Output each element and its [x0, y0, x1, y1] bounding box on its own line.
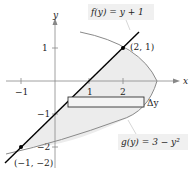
x-tick-label: 2 [120, 87, 126, 97]
x-tick-label: −1 [15, 87, 28, 97]
f-label-leader [126, 20, 130, 30]
y-axis-label: y [52, 10, 59, 20]
g-label: g(y) = 3 − y² [121, 137, 180, 147]
x-tick-label: 1 [87, 87, 93, 97]
f-label: f(y) = y + 1 [90, 7, 144, 17]
y-tick-label: −1 [37, 109, 50, 119]
x-axis-label: x [183, 76, 188, 86]
delta-y-label: Δy [147, 98, 159, 108]
region-diagram: x y −1 1 2 1 −1 −2 Δy (2, 1) (−1, −2) f(… [0, 0, 195, 174]
point-neg1-neg2 [19, 145, 23, 149]
x-axis-arrow-icon [173, 79, 180, 84]
g-label-leader [128, 120, 136, 134]
point-label-neg1-neg2: (−1, −2) [14, 158, 53, 168]
point-2-1 [121, 46, 125, 50]
y-tick-label: 1 [42, 43, 48, 53]
point-label-2-1: (2, 1) [130, 42, 154, 52]
representative-rectangle [68, 97, 144, 107]
